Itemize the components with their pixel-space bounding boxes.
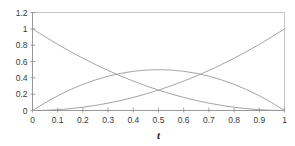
y-axis-tick-labels: 00.20.40.60.811.2	[16, 8, 28, 116]
x-axis-title: t	[157, 129, 161, 141]
x-tick-label: 0.6	[178, 115, 190, 125]
y-tick-label: 0.4	[16, 73, 28, 83]
x-tick-label: 0.1	[52, 115, 64, 125]
y-tick-label: 1	[23, 24, 28, 34]
chart-plot-svg: 00.10.20.30.40.50.60.70.80.91 00.20.40.6…	[0, 0, 295, 146]
x-tick-label: 0.4	[127, 115, 139, 125]
x-tick-label: 0.8	[228, 115, 240, 125]
x-tick-label: 0.2	[77, 115, 89, 125]
y-tick-label: 0.2	[16, 89, 28, 99]
x-tick-label: 0.9	[253, 115, 265, 125]
x-tick-label: 0.3	[102, 115, 114, 125]
y-tick-label: 1.2	[16, 8, 28, 18]
x-tick-label: 0.5	[153, 115, 165, 125]
x-tick-label: 1	[282, 115, 287, 125]
y-tick-label: 0.8	[16, 40, 28, 50]
x-tick-label: 0	[30, 115, 35, 125]
y-tick-label: 0	[23, 106, 28, 116]
chart-figure: 00.10.20.30.40.50.60.70.80.91 00.20.40.6…	[0, 0, 295, 146]
y-tick-label: 0.6	[16, 57, 28, 67]
plot-area-frame	[33, 13, 285, 111]
x-axis-tick-labels: 00.10.20.30.40.50.60.70.80.91	[30, 115, 287, 125]
x-tick-label: 0.7	[203, 115, 215, 125]
